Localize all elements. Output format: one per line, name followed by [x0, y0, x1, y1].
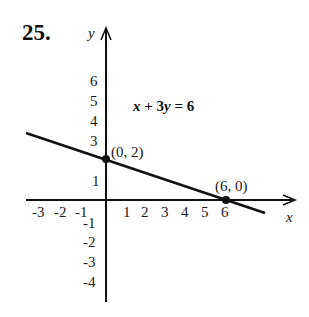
- point-0-2: [102, 155, 110, 163]
- y-tick-neg2: -2: [83, 234, 96, 250]
- x-axis-label: x: [285, 209, 293, 225]
- x-tick-2: 2: [141, 204, 149, 220]
- y-axis-label: y: [86, 25, 95, 41]
- y-tick-6: 6: [90, 73, 98, 89]
- y-tick-1: 1: [92, 173, 100, 189]
- point-label-6-0: (6, 0): [215, 178, 248, 195]
- x-tick-5: 5: [201, 204, 209, 220]
- x-tick-neg3: -3: [32, 204, 45, 220]
- x-tick-1: 1: [123, 204, 131, 220]
- equation-label: x + 3y = 6: [132, 98, 195, 114]
- x-tick-neg2: -2: [54, 204, 67, 220]
- point-label-0-2: (0, 2): [111, 144, 144, 161]
- y-tick-neg3: -3: [83, 254, 96, 270]
- x-tick-neg1: -1: [75, 204, 88, 220]
- y-tick-neg4: -4: [83, 274, 96, 290]
- x-tick-4: 4: [181, 204, 189, 220]
- y-tick-4: 4: [90, 113, 98, 129]
- x-tick-6: 6: [221, 204, 229, 220]
- graph: 25. y x 6 5 4 3 1 -1 -2 -3 -4 -3 -2 -1 1…: [0, 0, 309, 317]
- problem-number: 25.: [22, 20, 51, 45]
- y-tick-5: 5: [90, 93, 98, 109]
- x-tick-3: 3: [161, 204, 169, 220]
- point-6-0: [222, 196, 230, 204]
- y-tick-3: 3: [90, 133, 98, 149]
